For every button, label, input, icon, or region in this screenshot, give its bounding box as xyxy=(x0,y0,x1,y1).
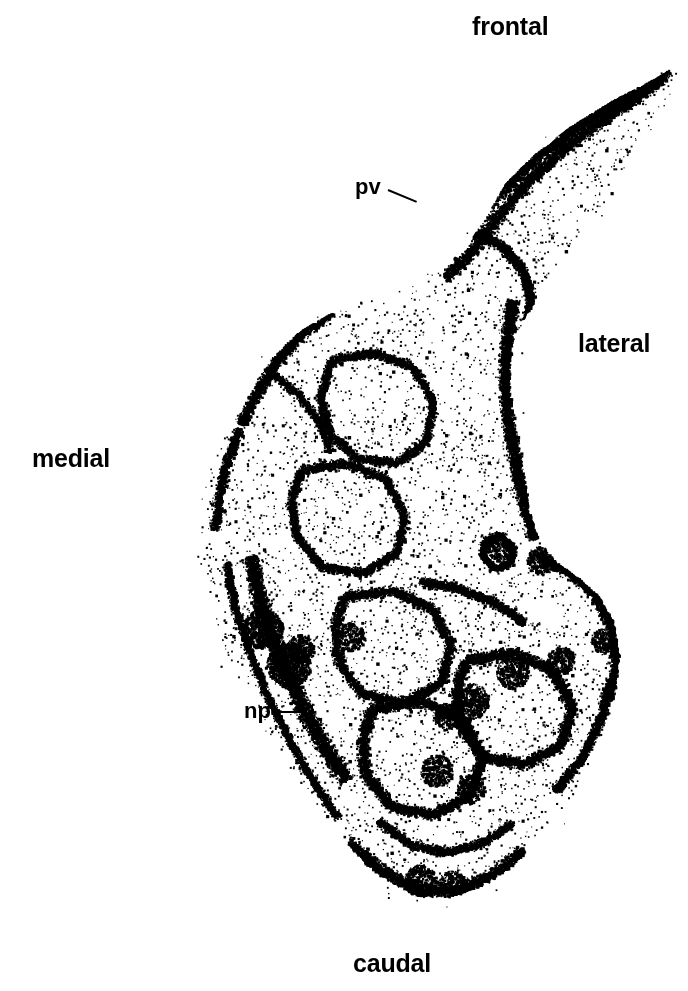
structure-label-pv: pv xyxy=(355,176,381,198)
figure-root: frontal lateral medial caudal pv np xyxy=(0,0,688,991)
stipple-section-canvas xyxy=(0,0,688,991)
orientation-label-lateral: lateral xyxy=(578,331,650,356)
leader-line-np xyxy=(277,711,301,713)
structure-label-np: np xyxy=(244,700,271,722)
orientation-label-medial: medial xyxy=(32,446,110,471)
orientation-label-caudal: caudal xyxy=(353,951,431,976)
orientation-label-frontal: frontal xyxy=(472,14,548,39)
